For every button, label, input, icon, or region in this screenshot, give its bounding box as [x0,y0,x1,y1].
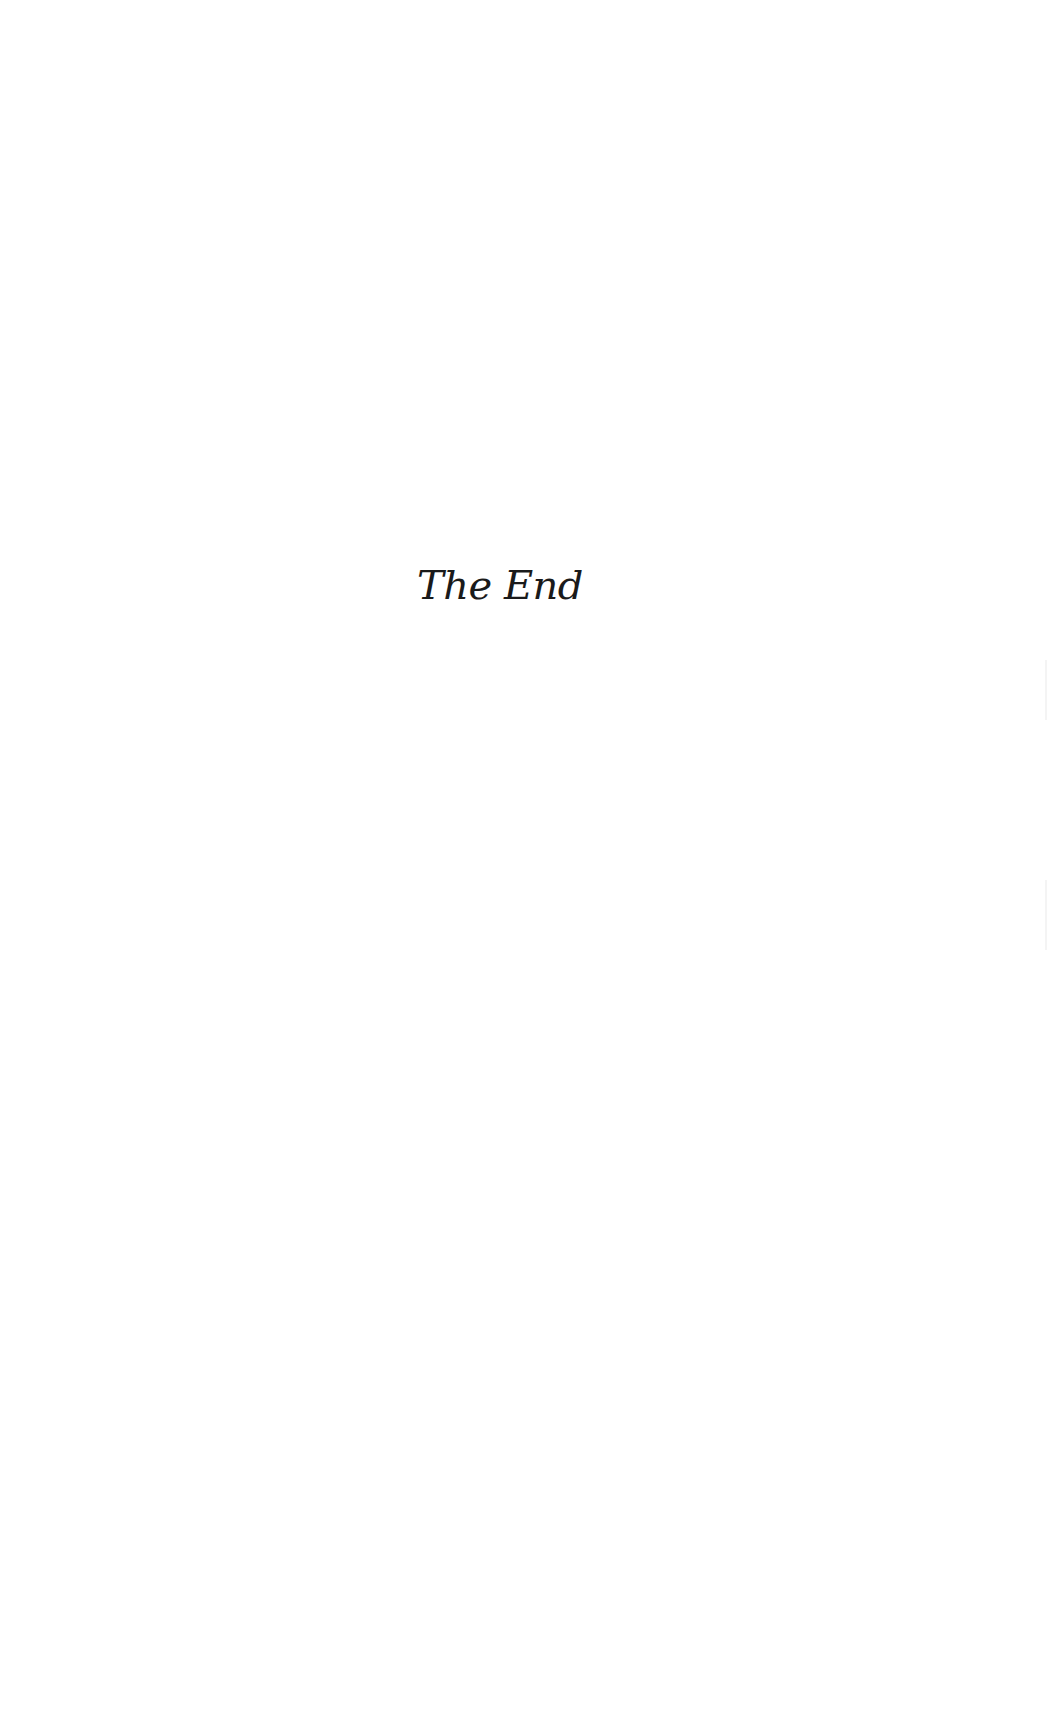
closing-text: The End [0,558,1000,612]
scan-artifact [1045,880,1047,950]
scan-artifact [1045,660,1047,720]
book-page: The End [0,0,1055,1713]
